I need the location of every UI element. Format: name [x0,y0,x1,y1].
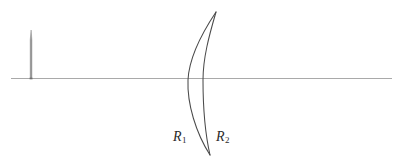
optics-figure: R1 R2 [0,0,400,162]
label-r2: R2 [216,130,229,144]
lens-surface-r2 [203,12,216,155]
lens-surface-r1 [188,12,216,155]
label-r1-subscript: 1 [182,135,187,145]
label-r1-letter: R [173,129,182,144]
label-r2-subscript: 2 [225,135,230,145]
optics-diagram-canvas [0,0,400,162]
object-arrow [30,30,32,78]
label-r2-letter: R [216,129,225,144]
label-r1: R1 [173,130,186,144]
